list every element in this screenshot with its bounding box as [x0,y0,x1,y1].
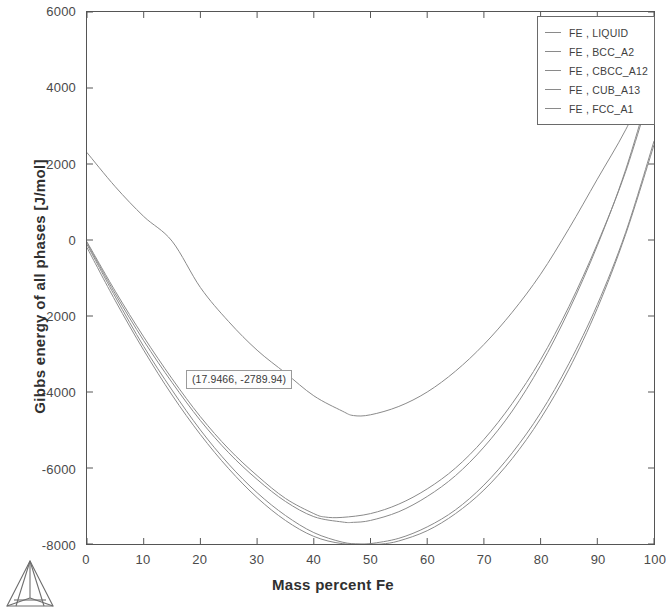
x-tick-label: 0 [82,552,89,567]
series-line-fe-bcc-a2 [87,80,654,517]
x-tick-label: 80 [534,552,549,567]
x-axis-title: Mass percent Fe [0,576,666,593]
legend-item[interactable]: FE , BCC_A2 [542,42,650,61]
x-tick-label: 100 [644,552,666,567]
legend-item[interactable]: FE , CUB_A13 [542,80,650,99]
tetrahedron-logo [2,556,58,612]
x-tick-label: 70 [477,552,492,567]
x-tick-label: 40 [306,552,321,567]
series-line-fe-fcc-a1 [87,75,654,523]
data-point-annotation: (17.9466, -2789.94) [186,370,292,389]
legend-item[interactable]: FE , CBCC_A12 [542,61,650,80]
y-tick-label: 4000 [46,80,76,95]
x-tick-label: 20 [192,552,207,567]
x-tick-label: 90 [591,552,606,567]
legend-item-label: FE , CBCC_A12 [569,65,648,77]
tetrahedron-logo-icon [2,556,58,612]
series-group [87,71,654,544]
x-tick-label: 30 [249,552,264,567]
legend-item-label: FE , FCC_A1 [569,103,634,115]
legend-item[interactable]: FE , FCC_A1 [542,99,650,118]
y-tick-label: 0 [69,232,76,247]
y-axis-title: Gibbs energy of all phases [J/mol] [31,20,48,554]
legend-item-label: FE , BCC_A2 [569,46,634,58]
legend-item-label: FE , LIQUID [569,27,628,39]
x-tick-label: 50 [363,552,378,567]
legend-item[interactable]: FE , LIQUID [542,23,650,42]
legend-line-swatch-icon [545,89,561,90]
series-line-fe-cbcc-a12 [87,141,654,544]
legend[interactable]: FE , LIQUIDFE , BCC_A2FE , CBCC_A12FE , … [537,16,655,125]
series-line-fe-cub-a13 [87,145,654,544]
x-tick-label: 60 [420,552,435,567]
legend-line-swatch-icon [545,70,561,71]
legend-line-swatch-icon [545,32,561,33]
legend-item-label: FE , CUB_A13 [569,84,640,96]
x-tick-label: 10 [135,552,150,567]
y-tick-label: 2000 [46,156,76,171]
chart-figure: 6000400020000-2000-4000-6000-8000 Mass p… [0,0,666,614]
y-tick-label: 6000 [46,4,76,19]
legend-line-swatch-icon [545,108,561,109]
legend-line-swatch-icon [545,51,561,52]
